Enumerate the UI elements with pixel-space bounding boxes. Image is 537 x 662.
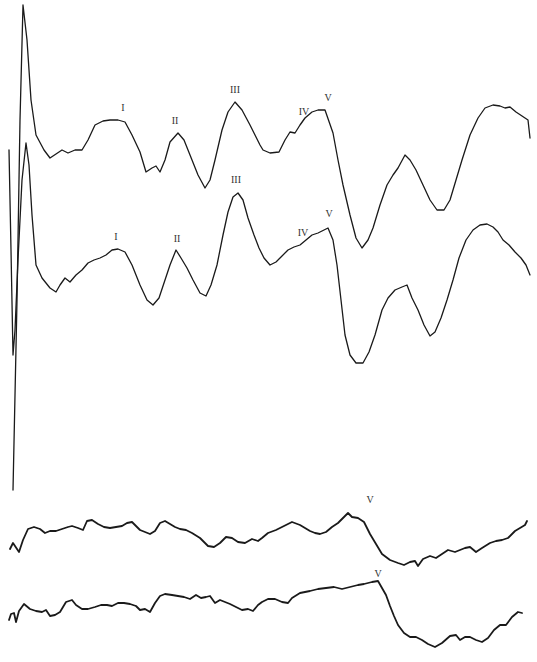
peak-label-iii-trace-2: III [231, 174, 241, 185]
peak-label-iv-trace-2: IV [298, 227, 309, 238]
peak-label-v-trace-4: V [374, 568, 382, 579]
trace-3-group [10, 513, 527, 566]
peak-label-v-trace-1: V [324, 92, 332, 103]
trace-1-group [13, 5, 530, 490]
figure-caption-cropped [100, 655, 537, 662]
abr-waveform-figure: IIIIIIIVVIIIIIIIVVVV [0, 0, 537, 662]
peak-label-v-trace-3: V [366, 494, 374, 505]
trace-4-group [9, 581, 522, 647]
peak-label-ii-trace-2: II [174, 233, 181, 244]
peak-label-i-trace-1: I [121, 102, 124, 113]
peak-label-iii-trace-1: III [230, 84, 240, 95]
waveform-trace-3 [10, 513, 527, 566]
waveform-trace-2 [9, 143, 530, 363]
peak-labels: IIIIIIIVVIIIIIIIVVVV [114, 84, 382, 579]
peak-label-v-trace-2: V [325, 208, 333, 219]
waveform-trace-4 [9, 581, 522, 647]
trace-2-group [9, 143, 530, 363]
waveform-trace-1 [13, 5, 530, 490]
peak-label-ii-trace-1: II [172, 115, 179, 126]
peak-label-i-trace-2: I [114, 231, 117, 242]
peak-label-iv-trace-1: IV [299, 106, 310, 117]
